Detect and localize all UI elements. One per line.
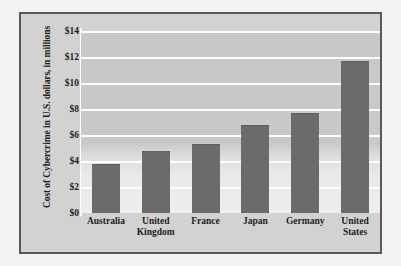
chart-frame: Cost of Cybercrime in U.S. dollars, in m…	[19, 12, 382, 254]
bar-united-states[interactable]	[341, 61, 369, 213]
x-axis-tick-label-japan: Japan	[230, 216, 280, 238]
plot-area	[81, 31, 380, 213]
y-axis-tick-label: $12	[47, 52, 79, 62]
x-axis-tick-label-line: Japan	[230, 216, 280, 227]
bar-france[interactable]	[192, 144, 220, 213]
bar-japan[interactable]	[241, 125, 269, 213]
bars-group	[81, 31, 380, 213]
bar-australia[interactable]	[92, 164, 120, 213]
bar-slot	[230, 31, 280, 213]
x-axis-tick-label-line: Kingdom	[131, 227, 181, 238]
y-axis-tick-label: $14	[47, 26, 79, 36]
x-axis-tick-label-united-kingdom: UnitedKingdom	[131, 216, 181, 238]
bar-slot	[330, 31, 380, 213]
x-axis-tick-label-line: United	[330, 216, 380, 227]
bar-germany[interactable]	[291, 113, 319, 213]
x-axis-tick-labels: AustraliaUnitedKingdomFranceJapanGermany…	[81, 216, 380, 238]
x-axis-tick-label-line: Germany	[280, 216, 330, 227]
y-axis-tick-labels: $0$2$4$6$8$10$12$14	[47, 31, 79, 213]
y-axis-tick-label: $6	[47, 130, 79, 140]
x-axis-tick-label-line: Australia	[81, 216, 131, 227]
bar-united-kingdom[interactable]	[142, 151, 170, 213]
y-axis-tick-label: $4	[47, 156, 79, 166]
x-axis-tick-label-line: States	[330, 227, 380, 238]
x-axis-tick-label-line: France	[181, 216, 231, 227]
x-axis-tick-label-germany: Germany	[280, 216, 330, 238]
y-axis-tick-label: $10	[47, 78, 79, 88]
x-axis-tick-label-line: United	[131, 216, 181, 227]
bar-slot	[181, 31, 231, 213]
bar-slot	[131, 31, 181, 213]
bar-slot	[280, 31, 330, 213]
chart-figure: Cost of Cybercrime in U.S. dollars, in m…	[0, 0, 401, 266]
x-axis-tick-label-australia: Australia	[81, 216, 131, 238]
bar-slot	[81, 31, 131, 213]
y-axis-tick-label: $8	[47, 104, 79, 114]
y-axis-tick-label: $2	[47, 182, 79, 192]
y-axis-tick-label: $0	[47, 208, 79, 218]
x-axis-tick-label-united-states: UnitedStates	[330, 216, 380, 238]
x-axis-tick-label-france: France	[181, 216, 231, 238]
